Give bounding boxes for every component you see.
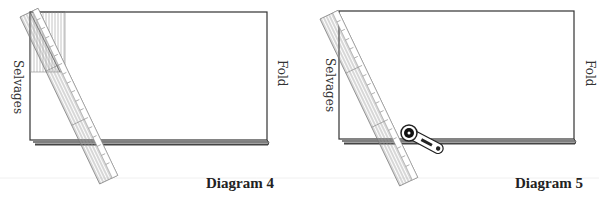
diagram-caption: Diagram 5: [515, 175, 583, 192]
diagram-4: [20, 8, 269, 184]
fold-label: Fold: [583, 60, 597, 86]
diagram-figure: Selvages Fold Diagram 4 Selvages Fold Di…: [0, 0, 599, 212]
selvages-label: Selvages: [323, 58, 337, 112]
fold-label: Fold: [275, 60, 289, 86]
selvages-label: Selvages: [11, 60, 25, 114]
diagram-caption: Diagram 4: [206, 175, 274, 192]
diagram-5: [320, 10, 576, 186]
diagram-canvas: [0, 0, 599, 212]
